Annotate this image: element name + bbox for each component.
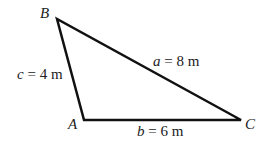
triangle-abc: [57, 19, 241, 120]
vertex-label-b: B: [40, 5, 49, 21]
side-b-eq: = 6 m: [145, 123, 184, 139]
side-a-var: a: [153, 53, 161, 69]
vertex-label-a: A: [67, 116, 78, 132]
side-label-a: a = 8 m: [153, 53, 200, 69]
side-label-b: b = 6 m: [137, 123, 184, 139]
side-a-eq: = 8 m: [161, 53, 200, 69]
side-c-eq: = 4 m: [24, 66, 63, 82]
vertex-label-c: C: [245, 116, 256, 132]
triangle-diagram: B A C a = 8 m b = 6 m c = 4 m: [0, 0, 268, 144]
side-label-c: c = 4 m: [17, 66, 63, 82]
